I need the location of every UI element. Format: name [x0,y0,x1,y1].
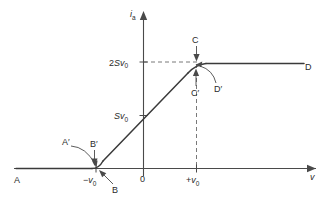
labels-group: ia v 0 −v0 +v0 Sv0 2Sv0 A [14,9,315,195]
y-tick-label-2sv0: 2Sv0 [109,58,129,70]
point-label-c: C [192,35,199,45]
leader-c-prime-arrowhead [193,69,199,77]
leader-d-prime [200,66,216,83]
transfer-characteristic-chart: ia v 0 −v0 +v0 Sv0 2Sv0 A [0,0,336,197]
point-label-c-prime: C′ [191,88,199,98]
reference-lines-group [144,62,198,167]
point-label-a: A [14,175,20,185]
sv0-main: Sv [114,111,125,121]
x-tick-label-pos-v0: +v0 [186,175,200,187]
figure-container: ia v 0 −v0 +v0 Sv0 2Sv0 A [0,0,336,197]
point-label-b: B [112,185,118,195]
origin-label: 0 [140,174,145,184]
x-tick-label-neg-v0: −v0 [83,175,97,187]
characteristic-curve-group [16,64,304,169]
axes-group [14,11,316,176]
sv0-sub: 0 [125,116,129,123]
point-label-d-prime: D′ [214,84,222,94]
two-sv0-sub: 0 [125,62,129,69]
y-axis-label-sub: a [132,14,136,21]
y-tick-label-sv0: Sv0 [114,111,129,123]
pos-v0-sub: 0 [196,180,200,187]
point-label-d: D [305,62,312,72]
leader-c-arrowhead [193,54,199,61]
x-axis-label: v [310,172,315,182]
leader-b [103,174,113,184]
neg-v0-sub: 0 [93,180,97,187]
two-sv0-main: Sv [114,58,125,68]
y-axis-label: ia [130,9,136,21]
y-axis-arrowhead [140,11,147,20]
point-label-a-prime: A′ [62,137,70,147]
point-label-b-prime: B′ [90,139,98,149]
